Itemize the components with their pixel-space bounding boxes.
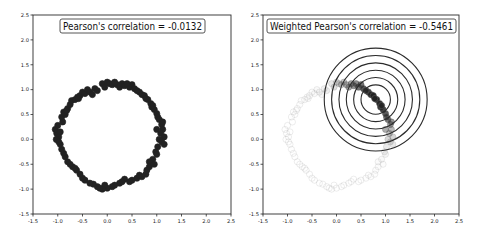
x-tick-label: 1.0 (153, 218, 161, 224)
x-tick-label: 0.0 (103, 218, 111, 224)
y-tick-label: 1.0 (21, 86, 29, 92)
y-tick-label: -0.5 (249, 161, 259, 167)
x-tick-label: -0.5 (307, 218, 317, 224)
data-point (124, 81, 130, 87)
x-tick-label: -0.5 (77, 218, 87, 224)
y-tick-label: -0.5 (19, 161, 29, 167)
data-point (97, 185, 103, 191)
y-tick-label: -1.5 (249, 211, 259, 217)
x-tick-label: 0.0 (332, 218, 340, 224)
y-tick-label: 2.5 (21, 12, 29, 18)
data-point (160, 119, 166, 125)
x-tick-label: -1.0 (282, 218, 292, 224)
x-tick-label: -1.5 (258, 218, 268, 224)
data-point (378, 102, 384, 108)
data-point (112, 79, 118, 85)
data-point (75, 95, 81, 101)
y-tick-label: 2.0 (21, 37, 29, 43)
x-tick-label: 1.5 (177, 218, 185, 224)
x-tick-label: 0.5 (128, 218, 136, 224)
y-tick-label: -1.0 (19, 186, 29, 192)
y-tick-label: 0.5 (251, 111, 259, 117)
x-tick-label: -1.5 (28, 218, 38, 224)
data-point (151, 161, 157, 167)
data-point (134, 88, 140, 94)
data-point (390, 141, 396, 147)
data-point (287, 129, 293, 135)
data-point (72, 165, 78, 171)
y-tick-label: 0.0 (21, 136, 29, 142)
data-point (161, 141, 167, 147)
x-tick-label: 1.0 (381, 218, 389, 224)
y-tick-label: 1.0 (251, 86, 259, 92)
x-tick-label: 2.0 (430, 218, 438, 224)
data-point (154, 126, 160, 132)
data-point (57, 129, 63, 135)
x-tick-label: -1.0 (53, 218, 63, 224)
data-point (326, 185, 332, 191)
x-tick-label: 2.5 (227, 218, 235, 224)
data-point (348, 179, 354, 185)
plot-left: -1.5-1.0-0.50.00.51.01.52.02.5-1.5-1.0-0… (19, 12, 235, 224)
data-point (365, 172, 371, 178)
x-tick-label: 1.5 (406, 218, 414, 224)
figure: -1.5-1.0-0.50.00.51.01.52.02.5-1.5-1.0-0… (0, 0, 479, 235)
x-tick-label: 2.5 (455, 218, 463, 224)
y-tick-label: 1.5 (21, 62, 29, 68)
chart-title: Pearson's correlation = -0.0132 (63, 21, 202, 32)
data-point (64, 107, 70, 113)
y-tick-label: 0.0 (251, 136, 259, 142)
data-point (380, 161, 386, 167)
x-tick-label: 2.0 (202, 218, 210, 224)
data-point (143, 95, 149, 101)
y-tick-label: 2.0 (251, 37, 259, 43)
y-tick-label: 2.5 (251, 12, 259, 18)
data-point (94, 88, 100, 94)
data-point (150, 102, 156, 108)
x-tick-label: 0.5 (357, 218, 365, 224)
data-point (305, 95, 311, 101)
plot-right: -1.5-1.0-0.50.00.51.01.52.02.5-1.5-1.0-0… (249, 12, 463, 224)
data-point (102, 84, 108, 90)
data-point (372, 95, 378, 101)
y-tick-label: 1.5 (251, 62, 259, 68)
chart-title: Weighted Pearson's correlation = -0.5461 (270, 21, 453, 32)
data-point (302, 165, 308, 171)
y-tick-label: -1.0 (249, 186, 259, 192)
data-point (285, 139, 291, 145)
y-tick-label: -1.5 (19, 211, 29, 217)
y-tick-label: 0.5 (21, 111, 29, 117)
data-point (119, 179, 125, 185)
data-point (136, 172, 142, 178)
data-point (56, 139, 62, 145)
data-point (293, 107, 299, 113)
